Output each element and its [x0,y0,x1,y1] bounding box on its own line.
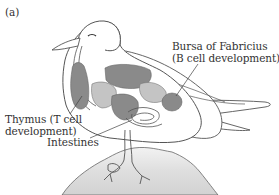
bird-anatomy-figure: (a) Bursa of Fabricius (B cell developme… [0,0,279,195]
bursa-label-line2: (B cell development) [172,52,279,64]
panel-label: (a) [5,6,19,18]
intestines-label: Intestines [47,136,99,148]
bird-illustration [0,0,279,195]
bursa-label: Bursa of Fabricius (B cell development) [172,40,279,64]
rock [62,147,218,195]
thymus-label: Thymus (T cell development) [5,113,82,137]
bursa-of-fabricius [162,93,182,111]
thymus-label-line1: Thymus (T cell [5,113,82,125]
bursa-label-line1: Bursa of Fabricius [172,40,279,52]
